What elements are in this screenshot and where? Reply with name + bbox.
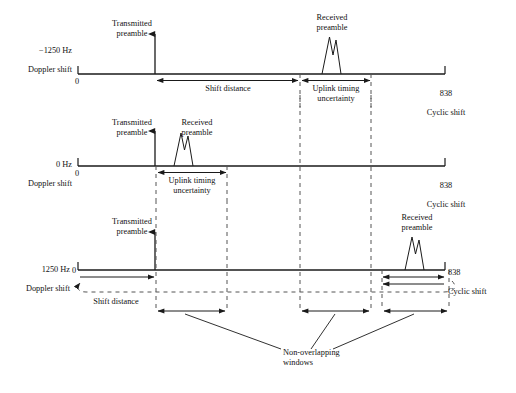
row3-received-preamble-label: Received preamble — [385, 213, 449, 232]
row3-doppler-value: 1250 Hz — [42, 265, 70, 274]
row3-shift-distance-label: Shift distance — [76, 297, 156, 307]
row3-doppler-label: 1250 Hz Doppler shift — [2, 255, 70, 293]
row3-axis-end-value: 838 — [448, 268, 460, 277]
row2-axis-end-value: 838 — [440, 181, 452, 190]
row1-axis-end-label: 838 Cyclic shift — [410, 79, 482, 117]
row1-shift-distance-label: Shift distance — [188, 84, 268, 94]
non-overlapping-windows-label: Non-overlapping windows — [283, 348, 373, 367]
row2-uplink-uncertainty-label: Uplink timing uncertainty — [160, 176, 224, 195]
row1-axis-end-value: 838 — [440, 89, 452, 98]
row3-axis-end-text: Cyclic shift — [448, 287, 486, 296]
row-minus1250-axis — [78, 66, 445, 74]
row1-doppler-label: −1250 Hz Doppler shift — [6, 36, 72, 74]
row2-received-preamble-spike — [174, 133, 193, 166]
figure-canvas: −1250 Hz Doppler shift Transmitted pream… — [0, 0, 516, 393]
row1-axis-end-text: Cyclic shift — [427, 108, 465, 117]
window-callout-leader-lines — [185, 314, 414, 349]
row1-axis-zero-label: 0 — [75, 77, 79, 87]
row3-doppler-text: Doppler shift — [26, 284, 70, 293]
row1-doppler-value: −1250 Hz — [39, 46, 72, 55]
row2-axis-end-text: Cyclic shift — [427, 200, 465, 209]
row3-wrap-around-dashed-link — [78, 281, 455, 292]
row3-received-preamble-spike — [405, 237, 424, 270]
row3-transmitted-preamble-label: Transmitted preamble — [100, 217, 164, 236]
row1-transmitted-preamble-label: Transmitted preamble — [100, 19, 164, 38]
row2-received-preamble-label: Received preamble — [165, 118, 229, 137]
row2-axis-zero-label: 0 — [75, 169, 79, 179]
row-0hz-axis — [78, 158, 445, 166]
row1-received-preamble-spike — [322, 37, 341, 74]
row2-doppler-value: 0 Hz — [56, 160, 72, 169]
row3-wrap-segment-arrows — [383, 277, 444, 284]
row1-received-preamble-label: Received preamble — [300, 13, 364, 32]
row3-axis-end-label: 838 Cyclic shift — [448, 258, 516, 296]
row1-uplink-uncertainty-label: Uplink timing uncertainty — [304, 84, 368, 103]
row-plus1250-axis — [78, 262, 445, 270]
row2-doppler-label: 0 Hz Doppler shift — [6, 150, 72, 188]
row2-transmitted-preamble-label: Transmitted preamble — [100, 118, 164, 137]
row2-axis-end-label: 838 Cyclic shift — [410, 171, 482, 209]
row2-doppler-text: Doppler shift — [28, 179, 72, 188]
row3-axis-zero-label: 0 — [72, 266, 76, 276]
row1-doppler-text: Doppler shift — [28, 65, 72, 74]
